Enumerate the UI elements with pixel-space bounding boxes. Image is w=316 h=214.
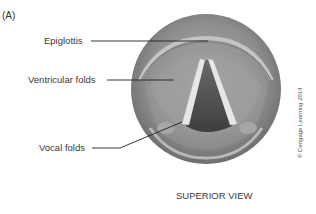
copyright-notice: © Cengage Learning 2014 [297, 88, 303, 158]
epiglottis-label: Epiglottis [44, 36, 83, 46]
figure-caption: SUPERIOR VIEW [176, 190, 253, 201]
ventricular-folds-label: Ventricular folds [28, 75, 96, 85]
vocal-folds-label: Vocal folds [39, 143, 85, 153]
larynx-illustration [0, 0, 316, 214]
